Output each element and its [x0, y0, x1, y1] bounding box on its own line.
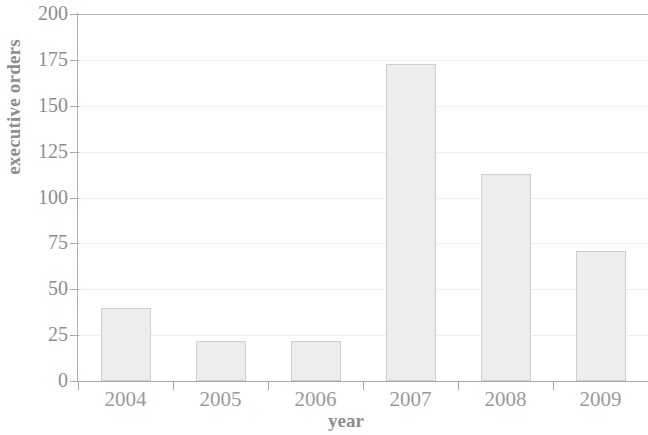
x-axis-tick-label: 2009 [556, 387, 646, 411]
y-axis-tick [70, 198, 79, 199]
x-axis-title: year [296, 410, 396, 432]
gridline [78, 335, 648, 336]
x-axis-tick-label: 2005 [176, 387, 266, 411]
x-axis-tick [78, 381, 79, 390]
x-axis-tick-label: 2004 [81, 387, 171, 411]
x-axis-tick-label: 2007 [366, 387, 456, 411]
x-axis-tick [553, 381, 554, 390]
y-axis-tick-label: 25 [16, 324, 68, 344]
plot-area [78, 14, 648, 381]
y-axis-tick-label: 100 [16, 187, 68, 207]
bar [291, 341, 341, 381]
gridline [78, 289, 648, 290]
y-axis-tick-label: 175 [16, 49, 68, 69]
x-axis-tick-label: 2006 [271, 387, 361, 411]
y-axis-tick-label: 0 [16, 370, 68, 390]
y-axis-tick [70, 14, 79, 15]
gridline [78, 106, 648, 107]
bar [386, 64, 436, 381]
x-axis-tick [458, 381, 459, 390]
gridline [78, 14, 648, 15]
gridline [78, 152, 648, 153]
x-axis-tick [173, 381, 174, 390]
bar-chart-figure: executive orders 0255075100125150175200 … [0, 0, 648, 435]
bar [481, 174, 531, 381]
y-axis-tick [70, 335, 79, 336]
bar [101, 308, 151, 381]
y-axis-tick-label: 50 [16, 278, 68, 298]
y-axis-tick-label: 75 [16, 232, 68, 252]
y-axis-tick [70, 152, 79, 153]
y-axis-tick-label: 200 [16, 3, 68, 23]
y-axis-tick [70, 289, 79, 290]
y-axis-tick-labels: 0255075100125150175200 [8, 0, 68, 400]
x-axis-tick [363, 381, 364, 390]
y-axis-tick [70, 243, 79, 244]
gridline [78, 243, 648, 244]
gridline [78, 60, 648, 61]
bar [196, 341, 246, 381]
y-axis-tick-label: 150 [16, 95, 68, 115]
y-axis-tick-label: 125 [16, 141, 68, 161]
gridline [78, 198, 648, 199]
bar [576, 251, 626, 381]
x-axis-tick-label: 2008 [461, 387, 551, 411]
x-axis-line [70, 381, 648, 382]
x-axis-tick [268, 381, 269, 390]
y-axis-tick [70, 106, 79, 107]
y-axis-tick [70, 60, 79, 61]
